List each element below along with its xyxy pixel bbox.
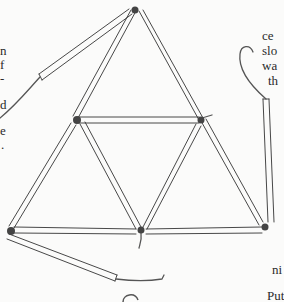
right-margin-fragment: wa — [262, 59, 277, 72]
right-margin-fragment: ce — [262, 29, 274, 42]
straw-inner-right — [142, 124, 201, 229]
straw-top-right — [139, 10, 203, 120]
straw-left-lower — [9, 123, 76, 228]
left-margin-fragment: d — [0, 98, 7, 111]
loose-straw-right — [263, 99, 274, 222]
book-page: n f - d e . ce slo wa th ni Put — [0, 0, 284, 302]
right-margin-fragment: Put — [267, 289, 284, 302]
partial-ring-bottom — [123, 295, 138, 302]
left-margin-fragment: . — [1, 138, 4, 151]
straw-triangle-illustration — [0, 0, 284, 302]
straw-middle-horizontal — [78, 117, 199, 123]
straw-bottom-right — [146, 227, 262, 234]
right-margin-fragment: th — [268, 74, 278, 87]
left-margin-fragment: - — [0, 72, 4, 85]
string-mid-right — [202, 115, 212, 118]
knots — [7, 7, 269, 236]
straw-bottom-left — [14, 227, 136, 234]
straw-right-lower — [201, 119, 263, 225]
left-margin-fragment: f — [0, 58, 4, 71]
straw-inner-left — [80, 122, 141, 229]
string-bottom-center — [139, 232, 141, 248]
left-margin-fragment: e — [0, 124, 6, 137]
loose-straw-lower-left — [7, 234, 117, 281]
string-bottom — [116, 275, 164, 281]
left-margin-fragment: n — [0, 44, 7, 57]
right-margin-fragment: slo — [262, 44, 277, 57]
right-margin-fragment: ni — [272, 263, 282, 276]
